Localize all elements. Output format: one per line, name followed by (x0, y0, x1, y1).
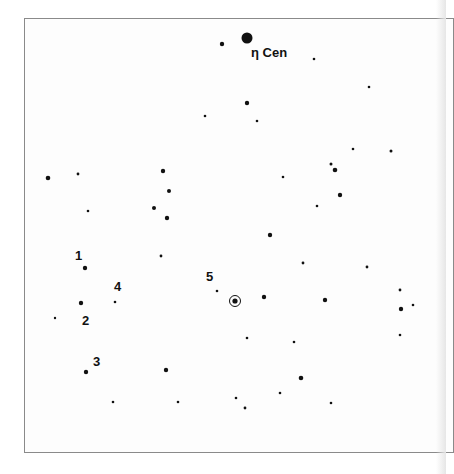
star (84, 370, 88, 374)
star (256, 120, 259, 123)
comparison-labels: 1 2 3 4 5 (75, 248, 213, 369)
comparison-label-3: 3 (93, 354, 100, 369)
star (177, 401, 180, 404)
star (323, 298, 327, 302)
star (245, 101, 249, 105)
star (54, 317, 56, 319)
star (246, 337, 249, 340)
target-star[interactable] (230, 296, 241, 307)
star (268, 233, 272, 237)
comparison-label-5: 5 (206, 269, 213, 284)
star (160, 255, 163, 258)
star (338, 193, 342, 197)
star (399, 307, 403, 311)
star (204, 115, 207, 118)
comparison-label-2: 2 (82, 313, 89, 328)
star (412, 304, 415, 307)
star (279, 392, 282, 395)
comparison-label-4: 4 (114, 279, 122, 294)
star (152, 206, 156, 210)
star (352, 148, 355, 151)
star (167, 189, 171, 193)
star (313, 58, 316, 61)
reference-star-dot (242, 33, 253, 44)
star (79, 301, 83, 305)
star (220, 42, 224, 46)
star (333, 168, 338, 173)
star (164, 368, 168, 372)
target-dot (232, 298, 237, 303)
star (244, 407, 247, 410)
star (366, 266, 369, 269)
star (399, 334, 402, 337)
star (399, 289, 402, 292)
star (299, 376, 304, 381)
star (114, 301, 117, 304)
star (282, 176, 285, 179)
star (293, 341, 296, 344)
star (368, 86, 371, 89)
star (302, 262, 305, 265)
star-group (46, 42, 415, 410)
star (46, 176, 51, 181)
star (262, 295, 266, 299)
star (77, 173, 80, 176)
star (161, 169, 165, 173)
comparison-label-1: 1 (75, 248, 82, 263)
reference-star-eta-cen: η Cen (242, 33, 288, 61)
reference-star-label: η Cen (251, 45, 287, 60)
star (87, 210, 90, 213)
star (390, 150, 393, 153)
star (83, 266, 87, 270)
star (235, 397, 238, 400)
star (330, 402, 333, 405)
star (330, 163, 333, 166)
star (216, 290, 219, 293)
star (165, 216, 169, 220)
page-edge-shadow (436, 0, 446, 474)
star (316, 205, 319, 208)
star (112, 401, 115, 404)
